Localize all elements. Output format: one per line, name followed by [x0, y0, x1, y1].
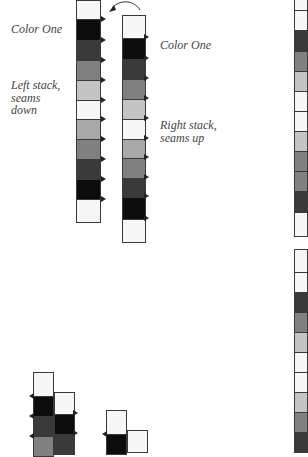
flip-arrow-icon [0, 0, 306, 443]
